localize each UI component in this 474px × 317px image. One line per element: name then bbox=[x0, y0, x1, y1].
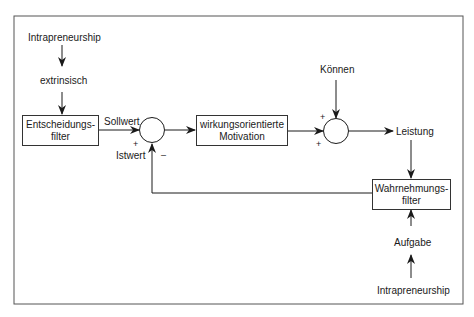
aufgabe-label: Aufgabe bbox=[394, 237, 431, 248]
leistung-label: Leistung bbox=[396, 126, 434, 137]
motivation-line2: Motivation bbox=[219, 131, 265, 143]
intrapreneurship-top-label: Intrapreneurship bbox=[28, 32, 101, 43]
motivation-line1: wirkungsorientierte bbox=[200, 119, 284, 131]
diagram-canvas bbox=[0, 0, 474, 317]
sum1-plus-sign: + bbox=[133, 140, 138, 149]
feedback-istwert-path bbox=[152, 144, 372, 193]
sollwert-label: Sollwert bbox=[104, 116, 140, 127]
outer-frame bbox=[14, 16, 463, 304]
entscheidungsfilter-line1: Entscheidungs- bbox=[26, 119, 95, 131]
sum2-plus-bottom-sign: + bbox=[316, 140, 321, 149]
summing-junction-2 bbox=[324, 119, 349, 144]
summing-junction-1 bbox=[140, 118, 165, 143]
extrinsisch-label: extrinsisch bbox=[40, 75, 87, 86]
sum1-minus-sign: – bbox=[161, 151, 166, 160]
istwert-label: Istwert bbox=[116, 150, 145, 161]
entscheidungsfilter-box: Entscheidungs- filter bbox=[22, 115, 99, 146]
wahrnehmungsfilter-box: Wahrnehmungs- filter bbox=[372, 179, 451, 210]
entscheidungsfilter-line2: filter bbox=[51, 131, 70, 143]
motivation-box: wirkungsorientierte Motivation bbox=[196, 115, 288, 146]
wahrnehmungsfilter-line1: Wahrnehmungs- bbox=[375, 183, 449, 195]
koennen-label: Können bbox=[320, 64, 354, 75]
sum2-plus-top-sign: + bbox=[320, 113, 325, 122]
intrapreneurship-bottom-label: Intrapreneurship bbox=[377, 285, 450, 296]
wahrnehmungsfilter-line2: filter bbox=[402, 195, 421, 207]
